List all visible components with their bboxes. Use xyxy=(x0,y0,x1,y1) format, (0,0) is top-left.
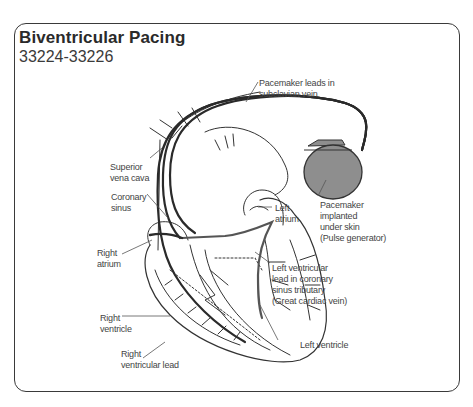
label-pacemaker-leads: Pacemaker leads in subclavian vein xyxy=(259,78,334,100)
label-rv-lead: Right ventricular lead xyxy=(121,349,179,371)
label-right-ventricle: Right ventricle xyxy=(100,313,132,335)
label-left-atrium: Left atrium xyxy=(275,203,299,225)
label-right-atrium: Right atrium xyxy=(97,248,121,270)
label-coronary-sinus: Coronary sinus xyxy=(111,192,146,214)
label-left-ventricle: Left ventricle xyxy=(300,340,348,351)
label-superior-vena-cava: Superior vena cava xyxy=(110,162,149,184)
heart-illustration xyxy=(0,0,473,407)
label-lv-lead: Left ventricular lead in coronary sinus … xyxy=(272,263,347,307)
pulse-generator-icon xyxy=(304,140,362,199)
label-pacemaker-implanted: Pacemaker implanted under skin (Pulse ge… xyxy=(320,200,386,244)
